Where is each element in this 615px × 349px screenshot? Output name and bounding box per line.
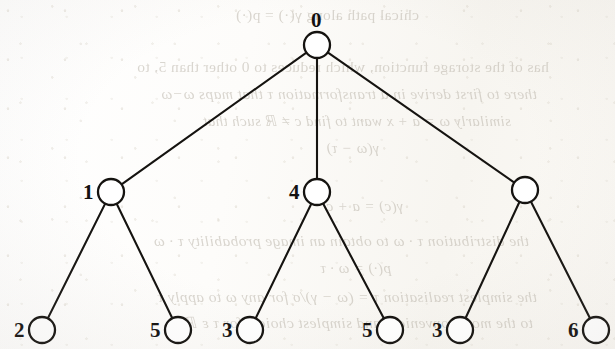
tree-diagram	[0, 0, 615, 349]
tree-node-label: 5	[362, 320, 373, 341]
tree-node-label: 3	[432, 320, 443, 341]
tree-node-circle	[377, 317, 403, 343]
tree-edge	[323, 203, 384, 318]
tree-edge	[531, 202, 590, 319]
tree-node-circle	[304, 179, 330, 205]
tree-node-label: 1	[83, 182, 94, 203]
tree-edge	[48, 204, 105, 319]
tree-node-label: 0	[311, 10, 322, 31]
tree-edge	[328, 52, 515, 182]
tree-node-label: 3	[222, 320, 233, 341]
tree-node-circle	[29, 317, 55, 343]
tree-node-label: 4	[289, 182, 300, 203]
tree-node-circle	[583, 317, 609, 343]
tree-node-circle	[304, 32, 330, 58]
tree-node-label: 5	[150, 320, 161, 341]
tree-node-label: 2	[14, 320, 25, 341]
tree-node-circle	[447, 317, 473, 343]
tree-node-label: 6	[568, 320, 579, 341]
tree-node-circle	[98, 179, 124, 205]
tree-edge	[117, 204, 173, 319]
tree-node-circle	[237, 317, 263, 343]
scanned-page: chical path along γ(·) = p(·)has of the …	[0, 0, 615, 349]
tree-node-circle	[512, 177, 538, 203]
tree-edge	[122, 53, 307, 185]
tree-edge	[465, 202, 519, 318]
tree-node-group	[29, 32, 609, 343]
tree-node-circle	[165, 317, 191, 343]
tree-edge	[256, 204, 312, 319]
